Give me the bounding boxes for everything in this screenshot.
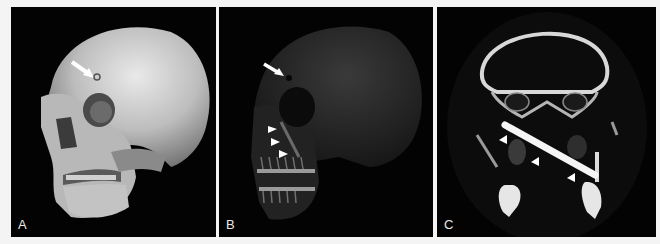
skull-transparent-render-image — [219, 7, 433, 237]
panel-b-3d-skull-transparent: B — [219, 7, 433, 237]
panel-a-3d-skull-opaque: A — [11, 7, 216, 237]
panel-label-b: B — [226, 218, 235, 231]
panel-label-c: C — [444, 218, 453, 231]
coronal-ct-slice-image — [437, 7, 656, 237]
panel-c-coronal-ct: C — [437, 7, 656, 237]
panel-label-a: A — [18, 218, 27, 231]
skull-3d-render-image — [11, 7, 216, 237]
